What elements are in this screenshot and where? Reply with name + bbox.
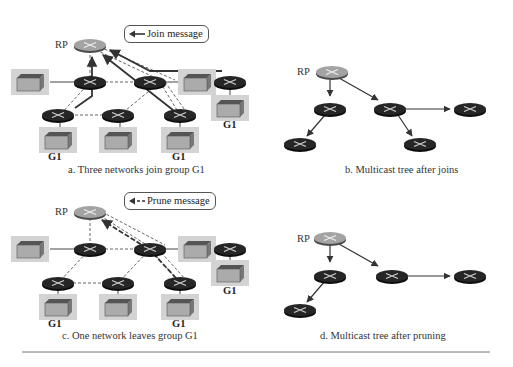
panel-d: [284, 232, 486, 318]
group-label: G1: [223, 119, 236, 130]
join-arrow-icon: [129, 30, 145, 38]
group-label: G1: [172, 151, 185, 162]
caption-b: b. Multicast tree after joins: [345, 164, 458, 175]
panel-c: [11, 206, 249, 320]
legend-label: Prune message: [147, 195, 210, 206]
rp-label: RP: [297, 66, 310, 77]
group-label: G1: [48, 151, 61, 162]
rp-label: RP: [55, 39, 68, 50]
group-label: G1: [172, 318, 185, 329]
group-label: G1: [48, 318, 61, 329]
prune-message-legend: Prune message: [124, 192, 216, 210]
multicast-diagram: [0, 0, 513, 367]
panel-b: [284, 66, 486, 152]
caption-a: a. Three networks join group G1: [68, 164, 205, 175]
legend-label: Join message: [147, 28, 203, 39]
join-message-legend: Join message: [124, 25, 209, 43]
rp-label: RP: [297, 233, 310, 244]
panel-a: [11, 39, 249, 153]
group-label: G1: [223, 285, 236, 296]
prune-arrow-icon: [129, 197, 145, 205]
caption-d: d. Multicast tree after pruning: [320, 330, 446, 341]
rp-label: RP: [55, 206, 68, 217]
caption-c: c. One network leaves group G1: [62, 330, 198, 341]
